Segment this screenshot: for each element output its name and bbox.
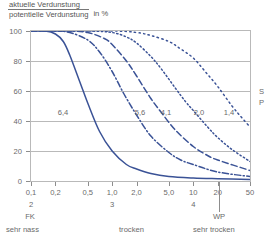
fk-marker-label: FK	[18, 212, 42, 221]
y-axis-tick-label: 40	[0, 117, 22, 126]
x-axis-tick-mark	[193, 182, 194, 186]
y-axis-tick-label: 80	[0, 57, 22, 66]
pf-axis-tick-label: 3	[100, 200, 124, 209]
curve-layer	[31, 31, 250, 181]
curve-value-label-4-1: 4,1	[155, 108, 177, 117]
zone-label-dry: trocken	[119, 225, 144, 234]
x-axis-tick-label: 0,1	[19, 188, 43, 197]
curve-5-6	[31, 31, 250, 177]
y-axis-tick-mark	[26, 31, 30, 32]
x-axis-tick-mark	[55, 182, 56, 186]
y-axis-tick-label: 60	[0, 87, 22, 96]
curve-2-0	[31, 31, 250, 162]
title-unit: in %	[93, 9, 108, 19]
title-numerator: aktuelle Verdunstung	[8, 1, 89, 9]
curve-6-4	[31, 31, 250, 180]
title-fraction: aktuelle Verdunstung potentielle Verduns…	[8, 1, 89, 19]
y-axis-tick-mark	[26, 91, 30, 92]
wp-marker-label: WP	[207, 212, 231, 221]
evaporation-ratio-chart: aktuelle Verdunstung potentielle Verduns…	[0, 0, 270, 242]
zone-label-very-dry: sehr trocken	[193, 225, 235, 234]
x-axis-tick-mark	[137, 182, 138, 186]
y-axis-tick-label: 100	[0, 27, 22, 36]
x-axis-tick-mark	[169, 182, 170, 186]
y-axis-tick-mark	[26, 121, 30, 122]
cropped-legend: S P	[259, 86, 264, 108]
x-axis-tick-label: 0,2	[43, 188, 67, 197]
curve-value-label-1-4: 1,4	[218, 108, 240, 117]
x-axis-tick-label: 5,0	[157, 188, 181, 197]
curve-value-label-6-4: 6,4	[52, 108, 74, 117]
plot-area	[30, 30, 251, 182]
x-axis-tick-mark	[31, 182, 32, 186]
x-axis-tick-mark	[112, 182, 113, 186]
cropped-legend-line-2: P	[259, 97, 264, 108]
x-axis-tick-mark	[250, 182, 251, 186]
title-denominator: potentielle Verdunstung	[8, 9, 89, 18]
chart-title: aktuelle Verdunstung potentielle Verduns…	[8, 1, 108, 19]
x-axis-tick-label: 2,0	[125, 188, 149, 197]
y-axis-tick-mark	[26, 181, 30, 182]
x-axis-tick-mark	[88, 182, 89, 186]
x-axis-tick-label: 20	[206, 188, 230, 197]
x-axis-tick-label: 50	[238, 188, 262, 197]
pf-axis-tick-label: 2	[19, 200, 43, 209]
zone-label-wet: sehr nass	[6, 225, 39, 234]
y-axis-tick-mark	[26, 151, 30, 152]
x-axis-tick-label: 0,5	[76, 188, 100, 197]
y-axis-tick-label: 20	[0, 147, 22, 156]
wp-marker-line	[219, 182, 220, 212]
pf-axis-tick-label: 4	[181, 200, 205, 209]
cropped-legend-line-1: S	[259, 86, 264, 97]
x-axis-tick-label: 10	[181, 188, 205, 197]
y-axis-tick-label: 0	[0, 177, 22, 186]
x-axis-tick-label: 1,0	[100, 188, 124, 197]
y-axis-tick-mark	[26, 61, 30, 62]
curve-4-1	[31, 31, 250, 171]
curve-value-label-5-6: 5,6	[129, 108, 151, 117]
curve-value-label-2-0: 2,0	[188, 108, 210, 117]
